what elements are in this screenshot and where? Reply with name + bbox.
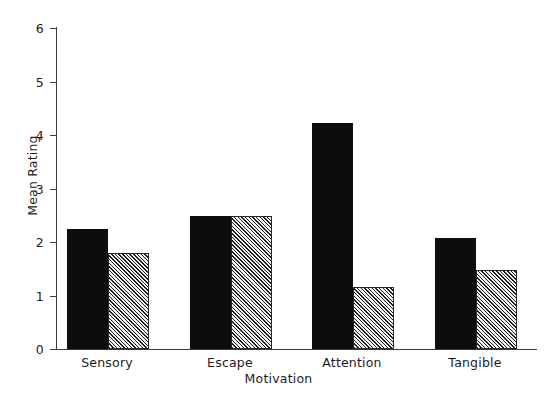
bar-tangible-hatched xyxy=(476,270,517,349)
x-axis-label-attention: Attention xyxy=(292,355,412,370)
y-tick-mark xyxy=(50,135,57,136)
x-axis-title: Motivation xyxy=(0,371,557,386)
y-tick-mark xyxy=(50,28,57,29)
bar-escape-solid xyxy=(190,216,231,349)
bar-chart: 0123456 Mean Rating Motivation SensoryEs… xyxy=(0,0,557,401)
x-axis-line xyxy=(56,349,537,350)
plot-area xyxy=(57,28,537,349)
y-tick-label: 1 xyxy=(4,289,44,304)
x-axis-label-sensory: Sensory xyxy=(47,355,167,370)
y-tick-label: 0 xyxy=(4,342,44,357)
y-axis-title: Mean Rating xyxy=(25,111,40,241)
bar-tangible-solid xyxy=(435,238,476,349)
x-axis-label-escape: Escape xyxy=(170,355,290,370)
y-tick-label: 6 xyxy=(4,21,44,36)
y-tick-mark xyxy=(50,242,57,243)
bar-sensory-solid xyxy=(67,229,108,349)
y-tick-mark xyxy=(50,296,57,297)
bar-sensory-hatched xyxy=(108,253,149,349)
x-axis-label-tangible: Tangible xyxy=(415,355,535,370)
bar-attention-hatched xyxy=(353,287,394,349)
bar-attention-solid xyxy=(312,123,353,349)
y-tick-mark xyxy=(50,82,57,83)
bar-escape-hatched xyxy=(231,216,272,349)
y-tick-label: 5 xyxy=(4,75,44,90)
y-tick-mark xyxy=(50,189,57,190)
y-tick-mark xyxy=(50,349,57,350)
